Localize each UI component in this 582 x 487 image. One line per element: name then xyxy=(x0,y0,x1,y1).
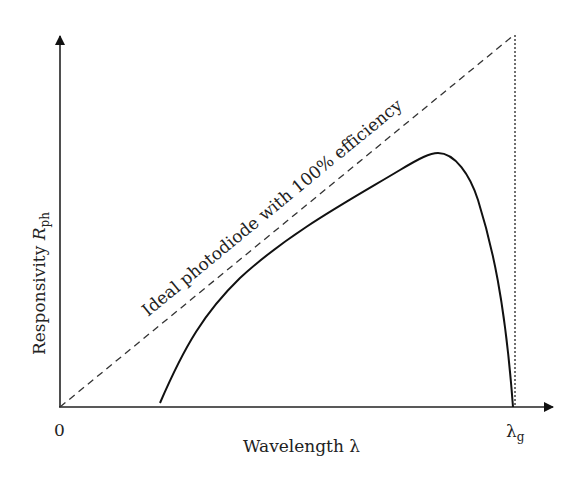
responsivity-chart: Ideal photodiode with 100% efficiency Re… xyxy=(0,0,582,487)
x-tick-lambda-g: λg xyxy=(506,421,525,444)
actual-responsivity-curve xyxy=(160,153,513,407)
x-tick-origin: 0 xyxy=(54,420,65,440)
y-axis-label: Responsivity Rph xyxy=(29,212,52,355)
ideal-responsivity-line xyxy=(60,35,514,407)
ideal-annotation: Ideal photodiode with 100% efficiency xyxy=(138,95,406,320)
x-axis-label: Wavelength λ xyxy=(243,436,360,456)
